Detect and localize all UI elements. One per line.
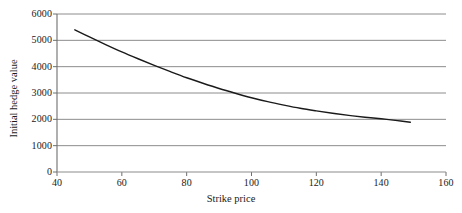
y-tick-label: 3000 xyxy=(14,88,52,98)
y-axis-title: Initial hedge value xyxy=(8,39,19,159)
gridlines-group xyxy=(57,14,446,146)
tick-marks-group xyxy=(53,14,446,176)
x-tick-label: 60 xyxy=(117,178,127,188)
x-tick-label: 120 xyxy=(309,178,324,188)
data-series-line xyxy=(75,30,411,122)
x-tick-label: 160 xyxy=(438,178,453,188)
x-tick-label: 140 xyxy=(374,178,389,188)
x-tick-label: 40 xyxy=(52,178,62,188)
y-tick-label: 1000 xyxy=(14,141,52,151)
y-tick-label: 5000 xyxy=(14,35,52,45)
y-tick-label: 2000 xyxy=(14,114,52,124)
x-tick-label: 100 xyxy=(244,178,259,188)
y-tick-label: 4000 xyxy=(14,62,52,72)
x-tick-label: 80 xyxy=(182,178,192,188)
chart-plot-area xyxy=(0,0,462,213)
y-tick-label: 0 xyxy=(14,167,52,177)
y-tick-label: 6000 xyxy=(14,9,52,19)
chart-figure: 0100020003000400050006000 40608010012014… xyxy=(0,0,462,213)
x-axis-title: Strike price xyxy=(0,193,462,204)
